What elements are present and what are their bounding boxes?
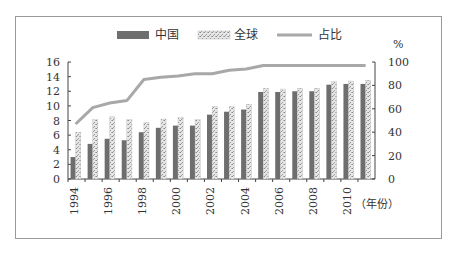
- legend-swatch-china: [117, 31, 149, 39]
- left-tick-label: 12: [46, 85, 60, 98]
- bar-china: [292, 91, 297, 179]
- share-line: [76, 66, 366, 125]
- right-tick-label: 80: [388, 79, 402, 92]
- bar-china: [326, 85, 331, 179]
- x-tick-label: 1994: [68, 187, 81, 215]
- bar-global: [314, 88, 319, 179]
- x-tick-label: 2004: [239, 187, 252, 215]
- bar-china: [343, 84, 348, 179]
- right-tick-label: 100: [388, 56, 409, 69]
- bar-china: [122, 140, 127, 179]
- bar-global: [263, 88, 268, 179]
- plot-area: 0246810121416020406080100199419961998200…: [46, 56, 409, 215]
- left-tick-label: 4: [53, 144, 60, 157]
- bar-china: [88, 144, 93, 179]
- right-tick-label: 0: [388, 173, 395, 186]
- bar-global: [161, 119, 166, 179]
- legend-label-global: 全球: [234, 27, 258, 42]
- x-axis-unit: （年份）: [355, 197, 399, 211]
- x-tick-label: 2006: [273, 187, 286, 215]
- legend-label-share: 占比: [318, 27, 342, 42]
- bar-global: [332, 82, 337, 179]
- right-tick-label: 40: [388, 126, 402, 139]
- bar-global: [93, 120, 98, 179]
- left-tick-label: 8: [53, 115, 60, 128]
- bar-global: [110, 117, 115, 179]
- bar-global: [246, 104, 251, 179]
- x-tick-label: 1998: [136, 187, 149, 215]
- bar-global: [195, 120, 200, 179]
- bar-china: [309, 91, 314, 179]
- bar-global: [212, 107, 217, 179]
- bar-china: [139, 132, 144, 179]
- left-tick-label: 16: [46, 56, 60, 69]
- bar-global: [178, 118, 183, 179]
- bar-global: [144, 123, 149, 179]
- left-tick-label: 14: [46, 71, 60, 84]
- bar-china: [275, 92, 280, 179]
- right-tick-label: 20: [388, 150, 402, 163]
- x-tick-label: 1996: [102, 187, 115, 215]
- x-tick-label: 2000: [170, 187, 183, 215]
- left-tick-label: 6: [53, 129, 60, 142]
- x-tick-label: 2010: [341, 187, 354, 215]
- bar-global: [366, 80, 371, 179]
- left-tick-label: 0: [53, 173, 60, 186]
- right-tick-label: 60: [388, 103, 402, 116]
- bar-china: [173, 126, 178, 179]
- bar-global: [127, 120, 132, 179]
- bar-china: [361, 84, 366, 179]
- left-tick-label: 2: [53, 158, 60, 171]
- bar-global: [349, 81, 354, 179]
- bar-china: [71, 157, 76, 179]
- bar-china: [258, 92, 263, 179]
- legend: 中国 全球 占比: [117, 27, 342, 42]
- bar-china: [224, 112, 229, 179]
- bar-china: [190, 126, 195, 179]
- bar-global: [229, 107, 234, 179]
- x-tick-label: 2008: [307, 187, 320, 215]
- chart-canvas: 中国 全球 占比 % （年份） 024681012141602040608010…: [0, 0, 458, 256]
- legend-label-china: 中国: [155, 27, 179, 42]
- left-tick-label: 10: [46, 100, 60, 113]
- right-axis-unit: %: [393, 38, 403, 51]
- legend-swatch-global: [198, 31, 230, 39]
- bar-china: [105, 139, 110, 179]
- bar-global: [297, 88, 302, 179]
- bar-global: [280, 89, 285, 179]
- bar-china: [156, 128, 161, 179]
- x-tick-label: 2002: [204, 187, 217, 215]
- bar-china: [241, 110, 246, 179]
- bar-global: [76, 132, 81, 179]
- bar-china: [207, 115, 212, 179]
